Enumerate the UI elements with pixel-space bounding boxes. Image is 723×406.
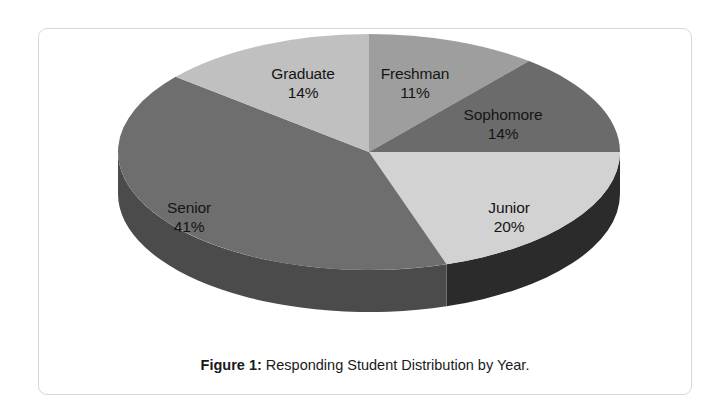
slice-label-freshman-value: 11%: [363, 83, 467, 102]
slice-label-senior: Senior 41%: [143, 198, 235, 236]
slice-label-junior-value: 20%: [462, 217, 556, 236]
slice-label-freshman-name: Freshman: [363, 64, 467, 83]
slice-label-senior-value: 41%: [143, 217, 235, 236]
slice-label-sophomore-value: 14%: [440, 124, 566, 143]
slice-label-senior-name: Senior: [143, 198, 235, 217]
slice-label-graduate-value: 14%: [248, 83, 358, 102]
slice-label-graduate-name: Graduate: [248, 64, 358, 83]
slice-label-junior: Junior 20%: [462, 198, 556, 236]
slice-label-junior-name: Junior: [462, 198, 556, 217]
slice-label-sophomore: Sophomore 14%: [440, 105, 566, 143]
figure-caption-label: Figure 1:: [201, 357, 262, 373]
slice-label-sophomore-name: Sophomore: [440, 105, 566, 124]
figure-caption-text: Responding Student Distribution by Year.: [266, 357, 530, 373]
pie-chart-graphic: [0, 0, 723, 406]
slice-label-freshman: Freshman 11%: [363, 64, 467, 102]
pie-chart: Graduate 14% Freshman 11% Sophomore 14% …: [0, 0, 723, 406]
slice-label-graduate: Graduate 14%: [248, 64, 358, 102]
figure-caption: Figure 1: Responding Student Distributio…: [38, 357, 692, 373]
